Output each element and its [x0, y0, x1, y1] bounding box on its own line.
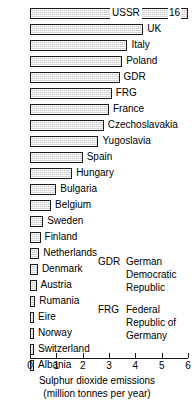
x-axis-tick: [162, 353, 163, 358]
legend-entry-gdr: GDRGermanDemocraticRepublic: [98, 255, 194, 294]
legend-expansion-line: Democratic: [126, 268, 194, 281]
bar-label: USSR: [110, 5, 142, 20]
legend-expansion-line: Germany: [126, 329, 194, 342]
bar-ussr: [30, 8, 188, 19]
bar-row: GDR: [0, 70, 194, 86]
bar-france: [30, 104, 109, 115]
bar-netherlands: [30, 248, 39, 259]
bar-label: Netherlands: [43, 245, 97, 260]
bar-spain: [30, 152, 83, 163]
legend-expansion-line: Republic: [126, 281, 194, 294]
bar-label: GDR: [124, 69, 146, 84]
bar-label: Sweden: [47, 213, 83, 228]
bar-label: Belgium: [55, 197, 91, 212]
x-axis-line: [30, 358, 188, 359]
bar-row: Poland: [0, 54, 194, 70]
bar-italy: [30, 40, 127, 51]
bar-label: Hungary: [76, 165, 114, 180]
legend: GDRGermanDemocraticRepublicFRGFederalRep…: [98, 255, 194, 351]
bar-label: Czechoslavakia: [108, 117, 178, 132]
bar-label: Denmark: [42, 261, 83, 276]
bar-row: Bulgaria: [0, 182, 194, 198]
bar-label: Rumania: [39, 293, 79, 308]
bar-frg: [30, 88, 112, 99]
x-axis-tick: [188, 353, 189, 358]
bar-label: France: [113, 101, 144, 116]
x-axis-tick-label: 4: [133, 360, 139, 372]
x-axis-tick-label: 3: [106, 360, 112, 372]
bar-row: USSR16: [0, 6, 194, 22]
bar-belgium: [30, 200, 51, 211]
bar-denmark: [30, 264, 38, 275]
bar-row: Czechoslavakia: [0, 118, 194, 134]
x-axis-tick: [135, 353, 136, 358]
bar-row: FRG: [0, 86, 194, 102]
bar-label: Finland: [45, 229, 78, 244]
bar-yugoslavia: [30, 136, 98, 147]
x-axis-tick: [56, 353, 57, 358]
x-axis-tick-label: 6: [185, 360, 191, 372]
bar-label: Bulgaria: [60, 181, 97, 196]
x-axis-title: Sulphur dioxide emissions (million tonne…: [0, 374, 194, 400]
bar-value-label: 16: [168, 5, 181, 20]
x-axis-tick-label: 1: [54, 360, 60, 372]
x-axis-tick-label: 2: [80, 360, 86, 372]
bar-czechoslavakia: [30, 120, 104, 131]
bar-sweden: [30, 216, 43, 227]
x-axis-tick: [30, 353, 31, 358]
bar-row: Belgium: [0, 198, 194, 214]
legend-expansion-line: Republic of: [126, 316, 194, 329]
bar-row: Hungary: [0, 166, 194, 182]
x-axis-title-line-2: (million tonnes per year): [0, 387, 194, 400]
bar-label: Spain: [87, 149, 113, 164]
legend-entry-frg: FRGFederalRepublic ofGermany: [98, 303, 194, 342]
x-axis-tick: [83, 353, 84, 358]
bar-rumania: [30, 296, 35, 307]
x-axis-tick-label: 5: [159, 360, 165, 372]
bar-finland: [30, 232, 41, 243]
legend-expansion: GermanDemocraticRepublic: [126, 255, 194, 294]
x-axis-tick: [109, 353, 110, 358]
bar-label: Austria: [41, 277, 72, 292]
bar-label: UK: [147, 21, 161, 36]
bar-hungary: [30, 168, 72, 179]
x-axis-tick-label: 0: [27, 360, 33, 372]
bar-norway: [30, 328, 34, 339]
bar-label: Yugoslavia: [102, 133, 150, 148]
bar-row: Sweden: [0, 214, 194, 230]
bar-label: Norway: [38, 325, 72, 340]
sulphur-dioxide-emissions-bar-chart: USSR16UKItalyPolandGDRFRGFranceCzechosla…: [0, 0, 194, 411]
bar-row: Spain: [0, 150, 194, 166]
bar-row: Italy: [0, 38, 194, 54]
bar-label: FRG: [116, 85, 137, 100]
x-axis-title-line-1: Sulphur dioxide emissions: [0, 374, 194, 387]
bar-eire: [30, 312, 34, 323]
bar-uk: [30, 24, 143, 35]
bar-row: UK: [0, 22, 194, 38]
legend-expansion-line: German: [126, 255, 194, 268]
bar-poland: [30, 56, 122, 67]
legend-expansion-line: Federal: [126, 303, 194, 316]
legend-abbreviation: GDR: [98, 255, 126, 268]
bar-row: Finland: [0, 230, 194, 246]
bar-label: Poland: [126, 53, 157, 68]
bar-label: Eire: [38, 309, 56, 324]
x-axis: 0123456: [0, 352, 194, 376]
bar-bulgaria: [30, 184, 56, 195]
bar-row: Yugoslavia: [0, 134, 194, 150]
bar-gdr: [30, 72, 120, 83]
bar-austria: [30, 280, 37, 291]
legend-abbreviation: FRG: [98, 303, 126, 316]
bar-label: Italy: [131, 37, 149, 52]
bar-row: France: [0, 102, 194, 118]
legend-expansion: FederalRepublic ofGermany: [126, 303, 194, 342]
